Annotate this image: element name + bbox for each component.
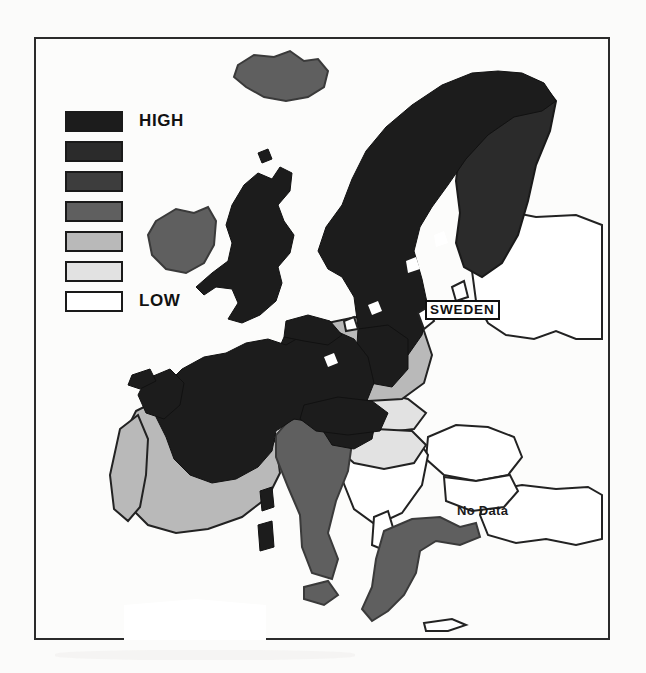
legend-swatch-7	[65, 291, 123, 312]
legend-row-7: LOW	[65, 291, 225, 321]
legend-swatch-2	[65, 141, 123, 162]
legend-label-low: LOW	[139, 290, 180, 312]
legend-swatch-5	[65, 231, 123, 252]
region-baltic-island	[452, 281, 468, 301]
region-north-africa	[124, 599, 266, 640]
legend-row-6	[65, 261, 225, 291]
legend-label-high: HIGH	[139, 110, 184, 132]
region-crete	[424, 619, 466, 631]
legend-swatch-1	[65, 111, 123, 132]
legend-row-5	[65, 231, 225, 261]
legend-swatch-6	[65, 261, 123, 282]
legend-swatch-4	[65, 201, 123, 222]
region-sicily	[304, 581, 338, 605]
region-iceland	[234, 51, 328, 101]
region-scotland-isles	[258, 149, 272, 163]
map-frame: SWEDEN No Data HIGH	[34, 37, 610, 640]
region-romania	[426, 425, 522, 481]
region-corsica	[260, 487, 274, 511]
no-data-label: No Data	[457, 503, 508, 518]
scan-artifact	[55, 650, 355, 660]
legend-row-4	[65, 201, 225, 231]
map-legend: HIGH LOW	[65, 111, 225, 321]
sweden-callout-label: SWEDEN	[425, 300, 500, 320]
legend-row-1: HIGH	[65, 111, 225, 141]
region-sardinia	[258, 521, 274, 551]
legend-row-2	[65, 141, 225, 171]
region-alpine	[300, 397, 388, 435]
map-hole-lake	[434, 231, 448, 247]
page-background: SWEDEN No Data HIGH	[0, 0, 646, 673]
legend-row-3	[65, 171, 225, 201]
legend-swatch-3	[65, 171, 123, 192]
